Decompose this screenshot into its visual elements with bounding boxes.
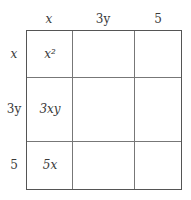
grid-divider-v2 [134,31,135,189]
cell-r1c1: x² [27,47,73,61]
cell-r2c1: 3xy [27,102,73,116]
cell-r3c1: 5x [27,158,73,172]
row-header-x: x [2,47,26,61]
row-header-3y: 3y [2,102,26,116]
column-header-5: 5 [134,12,182,26]
row-header-5: 5 [2,158,26,172]
multiplication-grid: x² 3xy 5x [26,30,182,190]
grid-divider-h1 [27,77,181,78]
column-header-x: x [26,12,72,26]
grid-divider-h2 [27,141,181,142]
column-header-3y: 3y [72,12,134,26]
